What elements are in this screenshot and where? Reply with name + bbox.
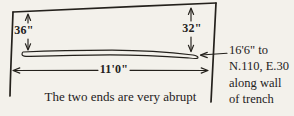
annotation-line-4: of trench: [229, 91, 289, 107]
annotation-text: 16'6" to N.110, E.30 along wall of trenc…: [229, 42, 289, 108]
trench-top-edge: [13, 3, 216, 12]
left-depth-label: 36": [13, 23, 35, 38]
annotation-line-2: N.110, E.30: [229, 58, 289, 74]
plank-artifact-outline: [22, 50, 198, 58]
trench-profile-diagram: 36" 32" 11'0" 16'6" to N.110, E.30 along…: [0, 0, 294, 116]
annotation-line-1: 16'6" to: [229, 42, 289, 58]
diagram-caption: The two ends are very abrupt: [38, 89, 203, 105]
trench-right-wall: [211, 3, 216, 102]
width-label: 11'0": [97, 62, 131, 77]
right-depth-label: 32": [180, 21, 204, 36]
annotation-line-3: along wall: [229, 75, 289, 91]
